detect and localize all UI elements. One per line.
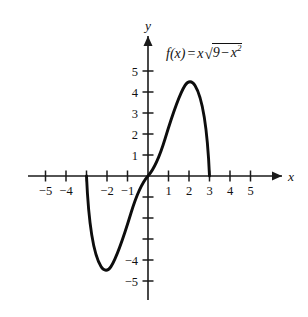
formula-radical: √9−x2 [204, 44, 243, 62]
x-tick-label: 5 [247, 184, 253, 198]
x-tick-label: −1 [121, 184, 134, 198]
x-tick-label: −2 [100, 184, 113, 198]
y-tick-label: 4 [132, 86, 139, 100]
y-tick-label: −4 [125, 254, 139, 268]
radicand-lead: 9 [213, 45, 220, 60]
x-tick-label: 2 [186, 184, 192, 198]
graph-canvas: −5 −4 −2 −1 1 2 3 4 5 5 4 3 2 1 −4 −5 x … [0, 0, 308, 317]
y-tick-label: 1 [132, 149, 138, 163]
formula-radicand: 9−x2 [212, 43, 243, 60]
y-tick-label: 5 [132, 65, 138, 79]
radicand-exponent: 2 [237, 43, 242, 53]
formula-equals-sign: = [185, 46, 197, 61]
x-tick-label: 1 [165, 184, 171, 198]
y-axis-arrow-icon [144, 36, 153, 46]
x-tick-label: 4 [227, 184, 234, 198]
y-tick-label: −5 [125, 275, 138, 289]
function-formula-annotation: f(x)=x√9−x2 [166, 44, 242, 62]
function-graph-figure: −5 −4 −2 −1 1 2 3 4 5 5 4 3 2 1 −4 −5 x … [0, 0, 308, 317]
x-tick-label: −5 [39, 184, 52, 198]
x-tick-labels: −5 −4 −2 −1 1 2 3 4 5 [39, 184, 254, 198]
y-tick-label: 2 [132, 128, 138, 142]
x-tick-label: 3 [206, 184, 212, 198]
y-axis-label: y [143, 18, 151, 33]
radicand-minus-sign: − [220, 45, 231, 60]
y-tick-label: 3 [132, 107, 138, 121]
x-axis-arrow-icon [272, 172, 282, 181]
x-tick-label: −4 [59, 184, 73, 198]
x-axis-label: x [287, 169, 294, 184]
formula-fn-part: f(x) [166, 46, 185, 61]
